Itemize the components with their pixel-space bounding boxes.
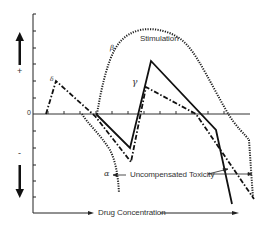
positive-arrow-icon [16,32,25,65]
curve-alpha [82,114,119,193]
curve-label-gamma: γ [132,77,137,87]
negative-sign: - [18,148,21,158]
diagram-canvas [0,0,272,226]
dose-response-diagram: + - 0 Stimulation Uncompensated Toxicity… [0,0,272,226]
curve-label-delta: δ [50,75,54,82]
x-axis-arrowhead-icon [232,211,239,215]
positive-sign: + [17,66,22,76]
x-axis-label: Drug Concentration [98,208,166,217]
curve-delta [46,81,254,199]
curve-label-alpha: α [104,169,109,178]
zero-label: 0 [27,109,31,116]
negative-arrow-icon [16,165,25,198]
uncompensated-toxicity-label: Uncompensated Toxicity [130,170,214,179]
curve-gamma [96,61,232,204]
stimulation-label: Stimulation [140,34,178,43]
curve-label-beta: β [110,44,114,52]
